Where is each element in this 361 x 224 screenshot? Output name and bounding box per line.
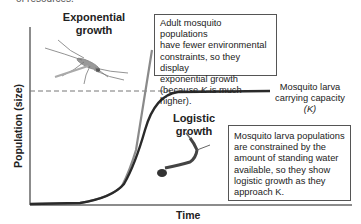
note-line: available, so they show bbox=[234, 165, 345, 176]
y-axis-label: Population (size) bbox=[12, 76, 24, 176]
mosquito-larva-icon bbox=[157, 133, 210, 177]
note-line: Mosquito larva populations bbox=[234, 131, 345, 142]
note-line: logistic growth as they bbox=[234, 176, 345, 187]
mosquito-adult-icon bbox=[45, 40, 128, 84]
note-line: amount of standing water bbox=[234, 153, 345, 164]
exponential-curve bbox=[30, 50, 152, 204]
note-line: (because K is much higher). bbox=[160, 85, 271, 107]
label-line: carrying capacity bbox=[262, 93, 358, 104]
x-axis-label: Time bbox=[176, 209, 200, 221]
label-line: Mosquito larva bbox=[262, 82, 358, 93]
exponential-growth-title: Exponential growth bbox=[54, 11, 134, 37]
title-line: Exponential bbox=[54, 11, 134, 24]
title-line: growth bbox=[164, 125, 224, 138]
note-line: Adult mosquito populations bbox=[160, 18, 271, 40]
note-line: constraints, so they display bbox=[160, 52, 271, 74]
note-line: approach K. bbox=[234, 187, 345, 198]
note-text: (because bbox=[160, 85, 201, 95]
logistic-growth-title: Logistic growth bbox=[164, 112, 224, 138]
title-line: growth bbox=[54, 24, 134, 37]
label-line: (K) bbox=[262, 104, 358, 115]
adult-mosquito-note: Adult mosquito populations have fewer en… bbox=[154, 14, 277, 76]
title-line: Logistic bbox=[164, 112, 224, 125]
note-line: exponential growth bbox=[160, 74, 271, 85]
note-line: have fewer environmental bbox=[160, 40, 271, 51]
carrying-capacity-label: Mosquito larva carrying capacity (K) bbox=[262, 82, 358, 115]
larva-note: Mosquito larva populations are constrain… bbox=[228, 125, 351, 201]
note-line: are constrained by the bbox=[234, 142, 345, 153]
